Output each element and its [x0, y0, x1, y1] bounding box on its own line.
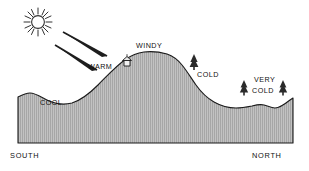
- direction-label-north: NORTH: [252, 152, 282, 159]
- tree-icon: [190, 54, 199, 70]
- tree-icon: [279, 80, 287, 96]
- tree-icon: [240, 80, 248, 96]
- zone-label-cool: COOL: [40, 99, 62, 106]
- zone-label-cold: COLD: [197, 71, 219, 78]
- zone-label-windy: WINDY: [136, 42, 162, 49]
- sun-icon: [24, 8, 52, 36]
- zone-label-warm: WARM: [88, 63, 112, 70]
- direction-label-south: SOUTH: [10, 152, 39, 159]
- zone-label-very: VERY: [254, 76, 275, 83]
- mountain-temperature-diagram: WARM WINDY COLD VERY COLD COOL SOUTH NOR…: [0, 0, 309, 171]
- zone-label-very-cold: COLD: [252, 87, 274, 94]
